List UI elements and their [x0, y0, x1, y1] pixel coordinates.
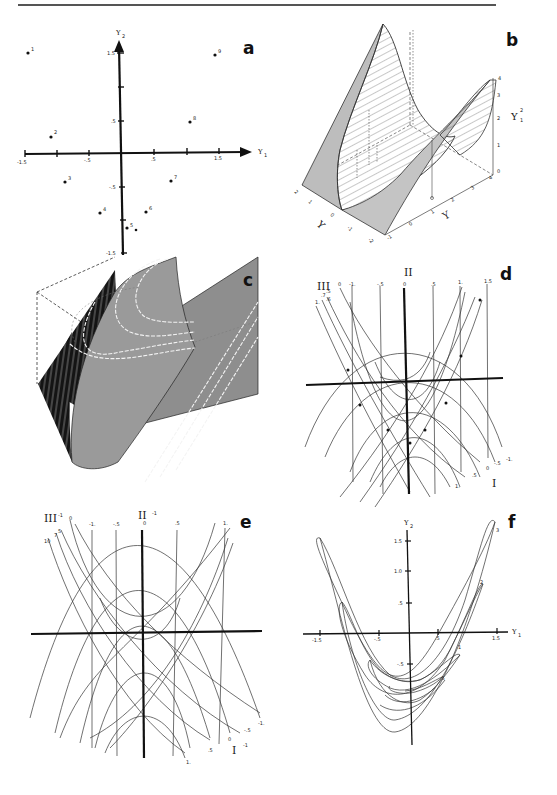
data-points: [347, 299, 482, 445]
panel-label-e: e: [240, 512, 252, 532]
curve-value-label: -.5: [113, 521, 120, 527]
curve-value-label: .5: [326, 288, 331, 294]
point-label: 4: [103, 206, 106, 212]
z-tick-label: 0: [497, 168, 500, 174]
superscript: -1: [58, 512, 63, 518]
y2-tick-label: 0: [408, 220, 414, 227]
curve-value-label: 0: [69, 515, 72, 521]
y-tick-label: -.5: [397, 661, 404, 667]
curve-value-label: -1.: [258, 720, 265, 726]
curve-value-label: 1.: [315, 299, 320, 305]
y-axis: [407, 530, 412, 745]
y-tick-label: 1.5: [394, 538, 402, 544]
x-tick-label: .5: [435, 635, 440, 641]
x-tick-label: -.5: [374, 636, 381, 642]
panel-a-scatter-plot: -1.5 -.5 .5 1.5 1.5 .5 -.5 -1.5 Y 1 Y 2 …: [0, 0, 280, 265]
curve-value-label: 7: [54, 532, 57, 538]
y-axis-arrow-icon: [114, 40, 124, 52]
curve-value-label: .5: [175, 520, 180, 526]
surface-main-sheet: [71, 257, 195, 469]
z-axis-label: Y: [510, 111, 518, 122]
panel-f-contour-plot: -1.5 -.5 .5 1.5 1.5 1.0 .5 -.5 Y 1 Y 2 3…: [280, 510, 557, 795]
curve-value-label: -.5: [244, 727, 251, 733]
y-tick-label: 1.0: [394, 568, 402, 574]
surface-right-ridge: [440, 80, 496, 155]
point-label: 6: [149, 205, 152, 211]
family-label-i-inverse: I: [232, 744, 236, 757]
panel-c-canvas: [0, 262, 280, 507]
y-axis-label: Y: [403, 519, 409, 527]
x-axis-label: Y: [257, 148, 263, 156]
y-axis-subscript: 2: [122, 33, 125, 39]
z-axis-superscript: 2: [520, 107, 523, 113]
curve-value-label: 1.: [458, 279, 463, 285]
curve-value-label: 0: [228, 736, 231, 742]
panel-d-coordinate-grid: II III I 0 -1. -.5 0 .5 1. 1.5 1. .7 .5 …: [280, 262, 557, 510]
curve-value-label: .5: [431, 281, 436, 287]
y1-axis-label: Y: [314, 218, 327, 231]
y-axis-label: Y: [115, 29, 121, 37]
y-tick-label: .5: [111, 118, 116, 124]
panel-a-canvas: -1.5 -.5 .5 1.5 1.5 .5 -.5 -1.5 Y 1 Y 2 …: [0, 0, 280, 265]
panel-e-coordinate-grid: II -1 III -1 I -1 0 -1. -.5 0 .5 1. 10 7…: [0, 508, 280, 793]
curve-value-label: -1.: [349, 281, 356, 287]
point-label: 8: [193, 115, 196, 121]
curve-value-label: 10: [44, 538, 50, 544]
horizontal-axis: [31, 631, 262, 634]
point-label: 5: [130, 222, 133, 228]
x-tick-label: -1.5: [17, 159, 27, 165]
y-tick-label: -1.5: [106, 250, 116, 256]
z-tick-label: 1: [497, 142, 500, 148]
contour-label: 1: [458, 644, 461, 650]
curve-value-label: 5: [58, 528, 61, 534]
x-axis-subscript: 1: [518, 632, 521, 638]
z-tick-label: 2: [497, 115, 500, 121]
family-label-ii: II: [404, 266, 413, 279]
y2-tick-label: 2: [450, 196, 456, 203]
y-tick-label: -.5: [109, 184, 116, 190]
curve-value-label: 1.5: [484, 278, 492, 284]
panel-label-b: b: [506, 30, 518, 50]
horizontal-axis: [306, 378, 503, 385]
panel-label-f: f: [508, 512, 515, 532]
x-tick-label: -.5: [84, 157, 91, 163]
panel-e-canvas: II -1 III -1 I -1 0 -1. -.5 0 .5 1. 10 7…: [0, 508, 280, 793]
contour-label: 2: [480, 579, 483, 585]
point-label: 3: [68, 175, 71, 181]
point-label: 1: [31, 46, 34, 52]
y-tick-label: 1.5: [107, 50, 115, 56]
family-label-i: I: [492, 477, 496, 490]
panel-label-d: d: [500, 264, 512, 284]
panel-b-3d-surface: 4 3 2 1 0 Y 2 1 2 1 0 -1 -2 Y -1 0 1 2 3…: [280, 0, 557, 260]
y-axis: [119, 45, 123, 255]
curve-value-label: .6: [326, 296, 331, 302]
x-axis-subscript: 1: [264, 152, 267, 158]
curve-value-label: .5: [208, 747, 213, 753]
point-label: 9: [218, 48, 221, 54]
panel-d-canvas: II III I 0 -1. -.5 0 .5 1. 1.5 1. .7 .5 …: [280, 262, 557, 510]
y-tick-label: .5: [398, 600, 403, 606]
y1-tick-label: 0: [329, 211, 335, 217]
panel-c-shaded-surface: c: [0, 262, 280, 507]
x-axis: [303, 632, 508, 634]
curve-value-label: 1.: [186, 759, 191, 765]
vertical-axis: [404, 288, 409, 494]
curve-value-label: .5: [472, 472, 477, 478]
z-tick-label: 4: [498, 75, 501, 81]
y2-axis-label: Y: [440, 209, 452, 223]
x-tick-label: -1.5: [312, 637, 322, 643]
curve-value-label: -.5: [494, 460, 501, 466]
y-axis-subscript: 2: [410, 523, 413, 529]
y2-tick-label: 1: [430, 208, 436, 215]
superscript: -1: [152, 510, 157, 516]
surface-shadow-tongue: [38, 332, 72, 462]
z-tick-label: 3: [497, 92, 500, 98]
curve-value-label: 0: [338, 281, 341, 287]
x-axis-label: Y: [511, 628, 517, 636]
vertical-axis: [142, 530, 144, 758]
contour-label: 3: [496, 527, 499, 533]
x-axis-arrow-icon: [240, 147, 252, 157]
curve-value-label: -.5: [377, 281, 384, 287]
point-label: 2: [54, 129, 57, 135]
z-axis-subscript: 1: [520, 117, 523, 123]
